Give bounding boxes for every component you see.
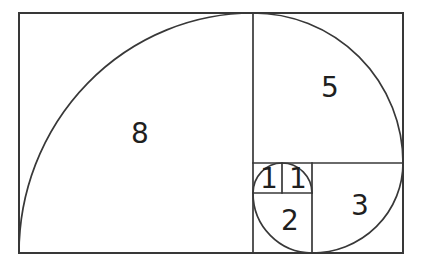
square-8-label: 8: [131, 120, 149, 148]
diagram-canvas: [0, 0, 421, 266]
square-1-left-label: 1: [260, 165, 278, 193]
square-3-label: 3: [351, 192, 369, 220]
square-2-label: 2: [281, 207, 299, 235]
fibonacci-spiral-diagram: 8 5 3 2 1 1: [0, 0, 421, 266]
square-5-label: 5: [321, 74, 339, 102]
golden-spiral-curve: [19, 13, 403, 253]
square-1-right-label: 1: [289, 165, 307, 193]
outer-rectangle: [19, 13, 403, 253]
diagram-strokes: [19, 13, 403, 253]
